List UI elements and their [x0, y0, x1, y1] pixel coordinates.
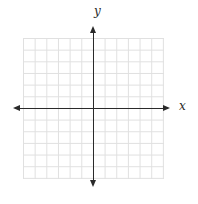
x-axis-right-arrowhead-icon — [163, 105, 170, 111]
x-axis-left-arrowhead-icon — [13, 105, 20, 111]
y-axis-label: y — [94, 5, 101, 17]
x-axis-label: x — [179, 100, 186, 112]
coordinate-plane: x y — [0, 0, 198, 204]
y-axis-top-arrowhead-icon — [90, 26, 96, 33]
y-axis-line — [93, 29, 95, 180]
y-axis-bottom-arrowhead-icon — [90, 180, 96, 187]
